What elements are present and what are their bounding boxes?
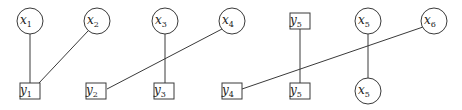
node-x4: x4 [219,8,245,34]
node-x2: x2 [84,8,110,34]
node-y3: y3 [153,83,174,99]
node-y5t: y5 [289,13,310,29]
nodes-layer: x1x2x3x4y5x5x6y1y2y3y4y5x5 [17,8,447,104]
node-x5b: x5 [355,78,381,104]
edge-x6-y4 [242,27,423,89]
node-y1: y1 [19,83,40,99]
edge-x2-y1 [39,31,88,83]
node-x3: x3 [152,8,178,34]
node-x5t: x5 [355,8,381,34]
node-x6: x6 [421,8,447,34]
node-x1: x1 [17,8,43,34]
node-y5b: y5 [289,83,310,99]
diagram-canvas: x1x2x3x4y5x5x6y1y2y3y4y5x5 [0,0,462,110]
node-y4: y4 [221,83,242,99]
node-y2: y2 [85,83,106,99]
